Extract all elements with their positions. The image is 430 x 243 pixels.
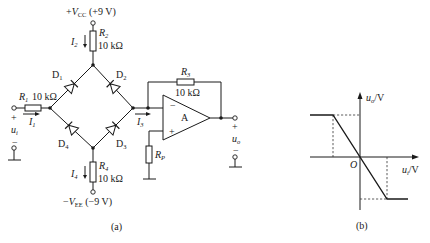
r3-label: R3 [180,66,191,78]
rp-label: RP [154,149,165,161]
opamp-noninverting-sign: + [169,126,175,137]
r2-label: R2 [98,27,109,39]
transfer-chart-b: uo/V ui/V O (b) [310,92,420,232]
vcc-label: +VCC (+9 V) [66,6,116,18]
arrow-down-icon [83,175,87,179]
r4-label: R4 [98,160,109,172]
circuit-diagram-a: +VCC (+9 V) R2 10 kΩ I2 D1 [8,6,242,233]
input-label: ui [11,124,18,136]
vee-terminal [91,190,95,194]
caption-b: (b) [356,220,368,232]
output-minus: − [233,145,239,156]
i2-label: I2 [70,36,78,48]
i4-label: I4 [70,168,78,180]
d2-label: D2 [116,69,126,81]
origin-label: O [350,159,357,170]
x-axis-label: ui/V [402,164,420,176]
i3-label: I3 [136,116,144,128]
r1-label: R1 [18,91,28,103]
arrow-right-icon [412,155,419,160]
input-terminal [12,106,16,110]
figure-canvas: +VCC (+9 V) R2 10 kΩ I2 D1 [0,0,430,243]
input-ground-terminal [12,146,16,150]
d4-label: D4 [58,138,69,150]
r3-value: 10 kΩ [175,87,200,98]
arrow-right-icon [146,112,151,116]
arrow-up-icon [358,92,363,99]
r4-value: 10 kΩ [98,173,123,184]
r2-value: 10 kΩ [98,40,123,51]
r1-value: 10 kΩ [32,91,57,102]
arrow-right-icon [35,112,40,116]
caption-a: (a) [111,221,122,233]
output-plus: + [232,121,238,132]
d1-label: D1 [52,69,62,81]
output-ground-terminal [233,155,237,159]
resistor-r1 [25,105,41,111]
resistor-r2 [90,31,96,51]
d3-label: D3 [116,138,126,150]
i1-label: I1 [28,116,36,128]
output-label: uo [232,133,241,145]
resistor-rp [146,146,152,163]
input-plus: + [11,112,17,123]
output-terminal [233,116,237,120]
resistor-r3 [177,79,194,85]
y-axis-label: uo/V [366,92,385,104]
vcc-terminal [91,21,95,25]
vee-label: −VEE (−9 V) [63,196,112,208]
opamp-inverting-sign: − [170,100,176,111]
node-output [219,116,223,120]
arrow-down-icon [83,44,87,48]
opamp-label: A [181,112,189,123]
resistor-r4 [90,162,96,182]
